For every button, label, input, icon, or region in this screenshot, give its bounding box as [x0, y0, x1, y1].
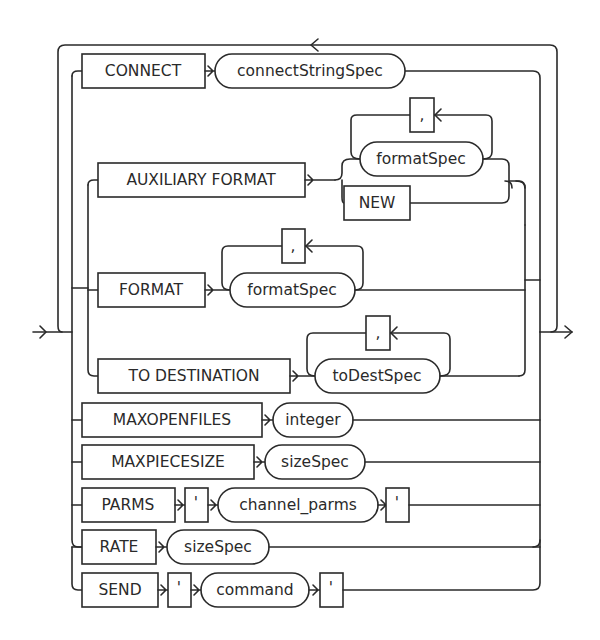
- rail-send-in: [72, 547, 82, 590]
- main-left-rail: [72, 76, 82, 547]
- nonterminal-formatspec-label: formatSpec: [247, 281, 336, 299]
- separator-quote-send-open-label: ': [177, 579, 181, 597]
- arrow-icon: [208, 500, 218, 510]
- separator-quote-send-close-label: ': [329, 579, 333, 597]
- aux-branch-upper: [335, 159, 360, 180]
- exit-arrow: [540, 326, 572, 338]
- keyword-connect-label: CONNECT: [105, 62, 182, 80]
- rail-connect-in: [72, 71, 82, 76]
- nonterminal-formatspec-aux-label: formatSpec: [376, 150, 465, 168]
- separator-quote-parms-close-label: ': [395, 494, 399, 512]
- arrow-icon: [158, 585, 168, 595]
- format-group-left-rail: [88, 185, 98, 376]
- arrow-icon: [175, 500, 185, 510]
- keyword-maxpiecesize-label: MAXPIECESIZE: [111, 453, 225, 471]
- keyword-rate-label: RATE: [100, 538, 139, 556]
- keyword-send-label: SEND: [98, 581, 141, 599]
- keyword-auxiliary-format-label: AUXILIARY FORMAT: [126, 171, 276, 189]
- separator-comma-format-label: ,: [291, 237, 296, 255]
- arrow-icon: [309, 585, 320, 595]
- keyword-maxopenfiles-label: MAXOPENFILES: [113, 411, 231, 429]
- aux-out: [505, 181, 525, 225]
- nonterminal-channel-parms-label: channel_parms: [239, 496, 357, 515]
- railroad-diagram: CONNECT connectStringSpec AUXILIARY FORM…: [0, 0, 600, 640]
- nonterminal-connectstringspec-label: connectStringSpec: [237, 62, 383, 80]
- keyword-parms-label: PARMS: [102, 496, 155, 514]
- arrow-icon: [378, 500, 386, 510]
- main-right-rail-bottom: [533, 332, 540, 547]
- keyword-new-label: NEW: [359, 194, 396, 212]
- arrow-icon: [156, 542, 167, 552]
- keyword-format-label: FORMAT: [119, 281, 184, 299]
- arrow-icon: [191, 585, 201, 595]
- format-group-right-rail: [519, 225, 525, 376]
- nonterminal-integer-label: integer: [285, 411, 341, 429]
- nonterminal-todestspec-label: toDestSpec: [333, 367, 422, 385]
- entry-arrow: [33, 326, 72, 338]
- arrow-icon: [262, 415, 273, 425]
- nonterminal-command-label: command: [216, 581, 293, 599]
- separator-comma-aux-label: ,: [420, 106, 425, 124]
- keyword-to-destination-label: TO DESTINATION: [127, 367, 259, 385]
- nonterminal-sizespec-piece-label: sizeSpec: [281, 453, 349, 471]
- arrow-icon: [254, 457, 265, 467]
- nonterminal-sizespec-rate-label: sizeSpec: [184, 538, 252, 556]
- rail-aux-in: [88, 180, 98, 185]
- arrow-icon: [305, 175, 335, 185]
- separator-comma-dest-label: ,: [376, 324, 381, 342]
- arrow-icon: [205, 66, 215, 76]
- separator-quote-parms-open-label: ': [194, 494, 198, 512]
